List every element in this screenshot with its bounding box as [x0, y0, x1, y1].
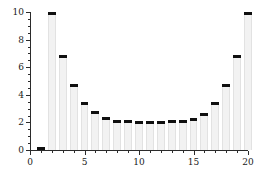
y-tick-major [26, 95, 30, 96]
bar [211, 103, 219, 150]
y-tick-label: 0 [2, 146, 24, 155]
bar [190, 120, 198, 150]
x-tick-minor [95, 151, 96, 153]
x-tick-minor [237, 151, 238, 153]
x-tick-major [30, 151, 31, 155]
x-tick-label: 5 [82, 158, 88, 167]
bar-top-cap [37, 147, 45, 150]
bar-top-cap [124, 120, 132, 123]
x-tick-minor [226, 151, 227, 153]
bar [81, 103, 89, 150]
bar [179, 121, 187, 150]
y-tick-minor [28, 26, 30, 27]
y-tick-minor [28, 109, 30, 110]
y-tick-minor [28, 102, 30, 103]
x-tick-minor [161, 151, 162, 153]
x-tick-major [85, 151, 86, 155]
x-tick-label: 10 [133, 158, 144, 167]
y-tick-minor [28, 81, 30, 82]
bar [91, 113, 99, 150]
bar-top-cap [81, 102, 89, 105]
bar [48, 12, 56, 150]
bar [124, 122, 132, 150]
bar-top-cap [113, 120, 121, 123]
bar-top-cap [233, 55, 241, 58]
bar-top-cap [200, 113, 208, 116]
x-tick-minor [63, 151, 64, 153]
x-tick-label: 15 [188, 158, 199, 167]
bar [233, 56, 241, 150]
y-tick-minor [28, 60, 30, 61]
bar [200, 114, 208, 150]
bar [244, 13, 252, 150]
x-tick-major [139, 151, 140, 155]
y-tick-label: 4 [2, 90, 24, 99]
bar [102, 118, 110, 150]
x-tick-minor [183, 151, 184, 153]
x-tick-minor [204, 151, 205, 153]
bar [222, 85, 230, 150]
y-tick-label: 6 [2, 63, 24, 72]
x-tick-minor [117, 151, 118, 153]
x-tick-minor [215, 151, 216, 153]
bar-top-cap [59, 55, 67, 58]
x-tick-minor [52, 151, 53, 153]
bar-top-cap [48, 12, 56, 15]
bar-top-cap [179, 120, 187, 123]
y-tick-major [26, 67, 30, 68]
y-tick-minor [28, 116, 30, 117]
y-tick-minor [28, 74, 30, 75]
y-tick-minor [28, 136, 30, 137]
y-tick-minor [28, 88, 30, 89]
y-tick-minor [28, 129, 30, 130]
y-axis-line [30, 12, 31, 150]
x-tick-minor [128, 151, 129, 153]
x-tick-label: 20 [242, 158, 253, 167]
y-tick-minor [28, 47, 30, 48]
x-tick-major [194, 151, 195, 155]
x-tick-major [248, 151, 249, 155]
bar-top-cap [135, 121, 143, 124]
y-tick-minor [28, 53, 30, 54]
x-tick-minor [106, 151, 107, 153]
bar-top-cap [190, 118, 198, 121]
bar [113, 121, 121, 150]
bar-top-cap [211, 102, 219, 105]
y-tick-major [26, 122, 30, 123]
y-tick-minor [28, 33, 30, 34]
bar [146, 122, 154, 150]
plot-area: 0246810 05101520 [30, 12, 248, 150]
x-tick-minor [41, 151, 42, 153]
x-tick-minor [150, 151, 151, 153]
bar-top-cap [146, 121, 154, 124]
bar [70, 85, 78, 150]
bar [168, 122, 176, 150]
x-tick-label: 0 [27, 158, 33, 167]
bar [135, 122, 143, 150]
bar-top-cap [91, 111, 99, 114]
bar-top-cap [157, 121, 165, 124]
y-tick-minor [28, 19, 30, 20]
bar [157, 122, 165, 150]
x-tick-minor [74, 151, 75, 153]
y-tick-minor [28, 143, 30, 144]
y-tick-major [26, 12, 30, 13]
y-tick-label: 8 [2, 35, 24, 44]
y-tick-major [26, 40, 30, 41]
bar [59, 56, 67, 150]
y-tick-label: 2 [2, 118, 24, 127]
bar-top-cap [168, 120, 176, 123]
bar-chart: 0246810 05101520 [0, 0, 262, 173]
bar-top-cap [70, 84, 78, 87]
bar-top-cap [244, 12, 252, 15]
bar-top-cap [222, 84, 230, 87]
bar-top-cap [102, 117, 110, 120]
y-tick-label: 10 [2, 8, 24, 17]
x-tick-minor [172, 151, 173, 153]
